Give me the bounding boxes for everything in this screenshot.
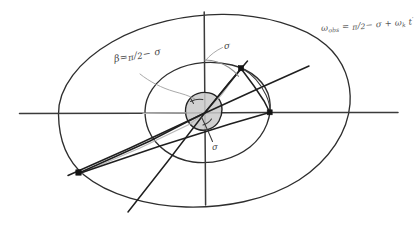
sketch-drawing	[0, 0, 417, 226]
equation-omega-k-subscript: k	[402, 21, 406, 28]
sigma-top-label: σ	[224, 41, 231, 51]
beta-pi-numerator: π	[127, 53, 134, 62]
equation-pi-numerator: π	[352, 23, 358, 31]
equation-equals: =	[342, 21, 350, 31]
beta-minus-sigma: − σ	[142, 46, 162, 60]
node-lower-left	[76, 170, 81, 175]
node-upper-right	[238, 66, 243, 71]
node-right	[267, 110, 272, 115]
equation-minus-sigma: − σ	[365, 19, 382, 30]
chord-lowerleft-to-right	[79, 113, 270, 174]
equation-omega-subscript: obs	[328, 26, 340, 34]
sigma-leader-line	[206, 48, 223, 61]
sigma-center-label: σ	[212, 143, 219, 152]
figure-canvas: β=π/2− σ σ σ ωobs = π/2− σ + ωk t′	[0, 0, 417, 226]
equation-plus: +	[384, 18, 392, 28]
